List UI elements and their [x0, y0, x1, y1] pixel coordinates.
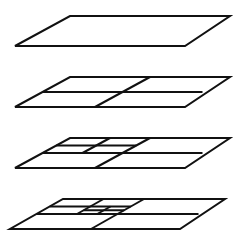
plane-level-2: [15, 138, 230, 168]
plane-level-0: [15, 16, 230, 46]
quadtree-diagram: [0, 0, 242, 247]
plane-level-1: [15, 77, 230, 107]
plane-level-3: [10, 199, 225, 229]
plane-outline: [15, 16, 230, 46]
